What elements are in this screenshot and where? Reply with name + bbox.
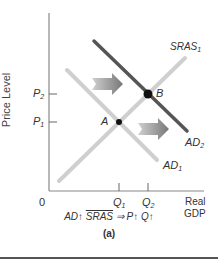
- shift-arrow-upper-icon: [92, 73, 123, 95]
- q1-sub: 1: [122, 202, 126, 209]
- origin-label: 0: [39, 197, 45, 208]
- caption-sras-fixed: SRAS: [86, 211, 113, 222]
- ad2-label: AD2: [185, 137, 204, 149]
- point-b-label: B: [156, 88, 163, 99]
- point-b-marker: [144, 90, 153, 99]
- sras-sub: 1: [197, 46, 201, 53]
- sras-text: SRAS: [170, 41, 197, 52]
- q2-text: Q: [142, 196, 151, 208]
- q1-text: Q: [113, 196, 122, 208]
- ad2-sub: 2: [200, 142, 204, 149]
- caption-part3: ⇒ P↑ Q↑: [113, 211, 154, 222]
- q2-sub: 2: [151, 202, 155, 209]
- ad1-sub: 1: [178, 165, 182, 172]
- ad1-label: AD1: [163, 160, 182, 172]
- p2-sub: 2: [40, 93, 44, 100]
- caption-part1: AD↑: [64, 211, 86, 222]
- bottom-divider: [0, 257, 218, 259]
- caption: AD↑ SRAS ⇒ P↑ Q↑: [0, 211, 218, 222]
- point-a-marker: [116, 119, 122, 125]
- p1-label: P1: [33, 116, 44, 128]
- sras1-label: SRAS1: [170, 42, 201, 53]
- point-a-label: A: [101, 116, 108, 127]
- shift-arrow-lower-icon: [138, 118, 169, 140]
- p1-sub: 1: [40, 121, 44, 128]
- ad1-text: AD: [163, 159, 178, 171]
- ad2-text: AD: [185, 136, 200, 148]
- panel-label: (a): [0, 228, 218, 239]
- q2-label: Q2: [142, 197, 154, 209]
- x-axis-label-line1: Real: [185, 197, 206, 207]
- y-axis-label: Price Level: [0, 73, 12, 127]
- p2-label: P2: [33, 88, 44, 100]
- q1-label: Q1: [113, 197, 125, 209]
